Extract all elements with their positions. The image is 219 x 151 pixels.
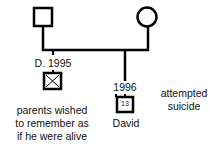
marriage-line <box>43 26 148 50</box>
father-square-icon <box>34 8 52 26</box>
david-note: attempted suicide <box>152 87 216 113</box>
david-name-label: David <box>108 117 144 129</box>
deceased-date-label: D. 1995 <box>33 57 73 69</box>
deceased-child-note: parents wished to remember as if he were… <box>2 104 102 143</box>
david-age-label: 13 <box>117 99 133 109</box>
note-line: to remember as <box>2 117 102 130</box>
mother-circle-icon <box>138 8 157 27</box>
note-line: attempted <box>152 87 216 100</box>
note-line: parents wished <box>2 104 102 117</box>
david-year-label: 1996 <box>108 81 142 93</box>
note-line: if he were alive <box>2 130 102 143</box>
note-line: suicide <box>152 100 216 113</box>
